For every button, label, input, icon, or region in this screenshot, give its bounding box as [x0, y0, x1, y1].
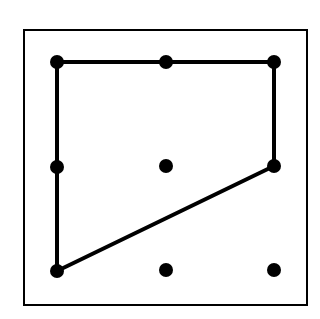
peg-dot	[50, 264, 64, 278]
peg-dot	[159, 263, 173, 277]
peg-dot	[267, 159, 281, 173]
peg-dot	[50, 55, 64, 69]
peg-dot	[159, 55, 173, 69]
peg-dot	[267, 55, 281, 69]
pegs	[50, 55, 281, 278]
peg-dot	[50, 160, 64, 174]
peg-dot	[267, 263, 281, 277]
geoboard-diagram	[0, 0, 320, 319]
peg-dot	[159, 159, 173, 173]
